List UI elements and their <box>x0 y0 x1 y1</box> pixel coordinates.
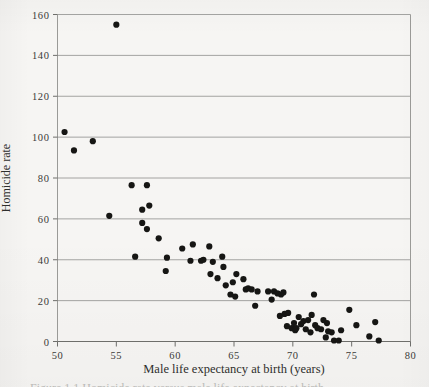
y-tick-label-80: 80 <box>8 173 50 184</box>
data-point <box>219 254 225 260</box>
x-tick-label-80: 80 <box>405 350 417 361</box>
data-point <box>329 329 335 335</box>
data-point <box>223 282 229 288</box>
data-point <box>311 291 317 297</box>
data-point <box>139 207 145 213</box>
data-points <box>61 22 381 344</box>
x-tick-marks <box>58 342 411 347</box>
data-point <box>163 268 169 274</box>
y-tick-label-40: 40 <box>8 254 50 265</box>
data-point <box>265 288 271 294</box>
y-tick-label-160: 160 <box>8 9 50 20</box>
data-point <box>280 289 286 295</box>
data-point <box>220 264 226 270</box>
data-point <box>190 241 196 247</box>
figure-caption: Figure 1.1 Homicide rate versus male lif… <box>30 381 324 387</box>
data-point <box>129 182 135 188</box>
data-point <box>207 271 213 277</box>
data-point <box>71 147 77 153</box>
data-point <box>338 327 344 333</box>
data-point <box>353 322 359 328</box>
data-point <box>232 293 238 299</box>
data-point <box>293 325 299 331</box>
data-point <box>200 257 206 263</box>
data-point <box>346 307 352 313</box>
data-point <box>285 310 291 316</box>
x-axis-label: Male life expectancy at birth (years) <box>143 362 325 377</box>
y-tick-label-60: 60 <box>8 213 50 224</box>
data-point <box>230 279 236 285</box>
data-point <box>179 245 185 251</box>
x-tick-label-70: 70 <box>287 350 299 361</box>
data-point <box>233 271 239 277</box>
data-point <box>252 303 258 309</box>
y-tick-marks <box>53 15 58 342</box>
x-tick-label-55: 55 <box>110 350 122 361</box>
gridlines <box>58 15 411 342</box>
x-tick-label-65: 65 <box>228 350 240 361</box>
y-tick-label-100: 100 <box>8 132 50 143</box>
data-point <box>336 337 342 343</box>
data-point <box>249 286 255 292</box>
data-point <box>296 314 302 320</box>
y-axis-label: Homicide rate <box>0 144 14 212</box>
data-point <box>139 220 145 226</box>
data-point <box>309 312 315 318</box>
data-point <box>61 129 67 135</box>
data-point <box>323 334 329 340</box>
y-tick-label-20: 20 <box>8 295 50 306</box>
data-point <box>324 320 330 326</box>
data-point <box>164 255 170 261</box>
data-point <box>269 297 275 303</box>
data-point <box>366 333 372 339</box>
data-point <box>307 329 313 335</box>
x-tick-label-75: 75 <box>346 350 358 361</box>
data-point <box>376 337 382 343</box>
data-point <box>254 288 260 294</box>
data-point <box>214 275 220 281</box>
data-point <box>187 258 193 264</box>
x-tick-label-60: 60 <box>169 350 181 361</box>
x-tick-label-50: 50 <box>52 350 64 361</box>
y-tick-label-0: 0 <box>8 336 50 347</box>
data-point <box>106 213 112 219</box>
data-point <box>372 319 378 325</box>
data-point <box>206 243 212 249</box>
figure-container: 16014012010080604020050556065707580 Homi… <box>0 0 429 387</box>
data-point <box>144 226 150 232</box>
data-point <box>113 22 119 28</box>
data-point <box>210 259 216 265</box>
data-point <box>90 138 96 144</box>
y-tick-label-140: 140 <box>8 50 50 61</box>
data-point <box>156 235 162 241</box>
data-point <box>240 276 246 282</box>
data-point <box>146 202 152 208</box>
scatter-plot <box>0 0 429 387</box>
y-tick-label-120: 120 <box>8 91 50 102</box>
data-point <box>318 326 324 332</box>
data-point <box>305 317 311 323</box>
data-point <box>144 182 150 188</box>
data-point <box>132 254 138 260</box>
